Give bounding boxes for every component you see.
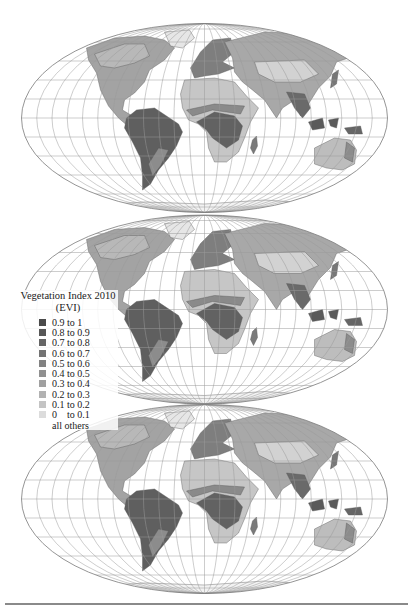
- legend-item: 0.9 to 1: [39, 317, 118, 327]
- legend-item: 0.5 to 0.6: [39, 358, 118, 368]
- continents-map-2: [85, 222, 373, 404]
- legend-swatch: [39, 339, 46, 346]
- map-1: [22, 24, 388, 213]
- legend-swatch: [39, 401, 46, 408]
- legend-subtitle: (EVI): [18, 302, 118, 314]
- legend-item: 0.8 to 0.9: [39, 327, 118, 337]
- legend-list: 0.9 to 1 0.8 to 0.9 0.7 to 0.8 0.6 to 0.…: [18, 317, 118, 430]
- legend-item: 0.7 to 0.8: [39, 338, 118, 348]
- legend: Vegetation Index 2010 (EVI) 0.9 to 1 0.8…: [18, 290, 118, 430]
- bottom-rule: [5, 603, 408, 605]
- legend-item: 0.3 to 0.4: [39, 379, 118, 389]
- legend-swatch: [39, 350, 46, 357]
- legend-item: 0 to 0.1: [39, 410, 118, 420]
- legend-swatch: [39, 319, 46, 326]
- legend-label: all others: [52, 420, 89, 431]
- map-3: [22, 405, 388, 594]
- legend-item: 0.4 to 0.5: [39, 368, 118, 378]
- continents-map-3: [85, 411, 373, 593]
- legend-swatch: [39, 360, 46, 367]
- legend-swatch: [39, 329, 46, 336]
- legend-swatch: [39, 411, 46, 418]
- legend-swatch: [39, 391, 46, 398]
- legend-item: 0.2 to 0.3: [39, 389, 118, 399]
- legend-item: 0.1 to 0.2: [39, 399, 118, 409]
- legend-item-others: all others: [52, 420, 118, 430]
- legend-swatch: [39, 370, 46, 377]
- continents-map-1: [85, 30, 373, 212]
- legend-swatch: [39, 380, 46, 387]
- legend-item: 0.6 to 0.7: [39, 348, 118, 358]
- legend-title: Vegetation Index 2010: [18, 290, 118, 302]
